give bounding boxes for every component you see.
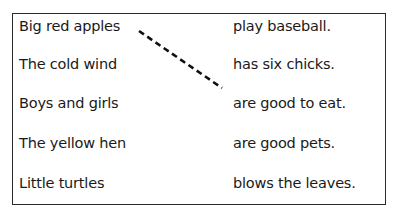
- dashed-match-line: [0, 0, 400, 223]
